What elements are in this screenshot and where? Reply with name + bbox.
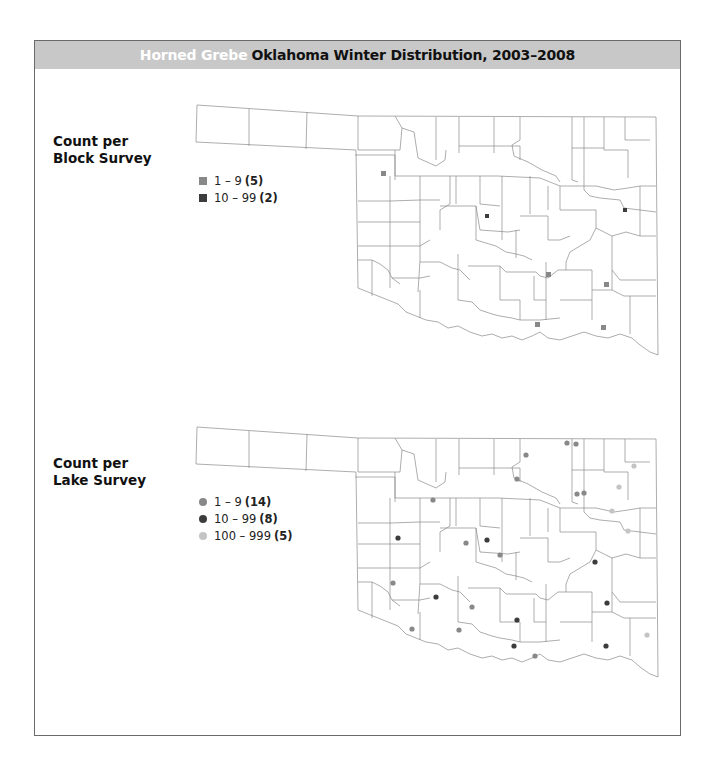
block-survey-map	[196, 105, 658, 355]
oklahoma-maps	[0, 0, 713, 767]
lake-survey-map	[196, 427, 658, 677]
